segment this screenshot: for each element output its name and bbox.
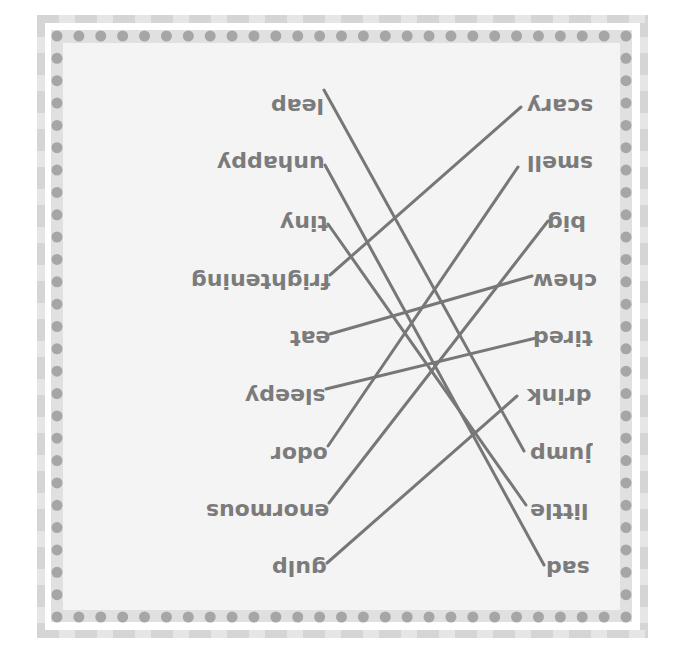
border-dot — [621, 589, 632, 600]
border-dot — [621, 433, 632, 444]
border-dot — [599, 31, 610, 42]
border-dot — [52, 343, 63, 354]
border-dot — [73, 31, 84, 42]
border-dot — [621, 75, 632, 86]
border-dot — [139, 612, 150, 623]
border-dot — [621, 500, 632, 511]
border-dot — [292, 612, 303, 623]
border-dot — [533, 31, 544, 42]
border-dot — [621, 120, 632, 131]
border-dot — [52, 567, 63, 578]
border-dot — [52, 120, 63, 131]
border-dot — [621, 142, 632, 153]
border-dot — [555, 612, 566, 623]
border-dot — [248, 31, 259, 42]
border-dot — [52, 544, 63, 555]
border-dot — [183, 612, 194, 623]
border-dot — [52, 477, 63, 488]
border-dot — [336, 31, 347, 42]
border-dot — [52, 522, 63, 533]
border-dot — [52, 410, 63, 421]
border-dot — [52, 500, 63, 511]
border-dot — [445, 612, 456, 623]
border-dot — [117, 31, 128, 42]
word-right-big[interactable]: big — [547, 212, 586, 234]
border-dot — [52, 187, 63, 198]
border-dot — [227, 612, 238, 623]
match-line-sleepy-tired — [326, 338, 536, 389]
word-left-sleepy[interactable]: sleepy — [245, 385, 326, 407]
border-dot — [621, 321, 632, 332]
word-right-scary[interactable]: scary — [527, 95, 593, 117]
word-right-drink[interactable]: drink — [527, 385, 591, 407]
word-left-frightening[interactable]: frightening — [191, 270, 330, 292]
border-dot — [183, 31, 194, 42]
border-dot — [402, 612, 413, 623]
border-dot — [52, 53, 63, 64]
border-dot — [117, 612, 128, 623]
border-dot — [52, 276, 63, 287]
border-dot — [621, 544, 632, 555]
border-dot — [577, 31, 588, 42]
border-dot — [621, 455, 632, 466]
border-dot — [621, 187, 632, 198]
word-left-enormous[interactable]: enormous — [206, 500, 329, 522]
border-dot — [380, 612, 391, 623]
border-dot — [621, 276, 632, 287]
border-dot — [621, 612, 632, 623]
border-dot — [336, 612, 347, 623]
border-dot — [402, 31, 413, 42]
border-dot — [533, 612, 544, 623]
word-right-little[interactable]: little — [530, 500, 589, 522]
border-dot — [489, 612, 500, 623]
word-right-chew[interactable]: chew — [533, 270, 597, 292]
border-dot — [52, 366, 63, 377]
border-dot — [621, 299, 632, 310]
word-left-unhappy[interactable]: unhappy — [217, 152, 325, 174]
border-dot — [270, 612, 281, 623]
border-dot — [52, 165, 63, 176]
border-dot — [52, 388, 63, 399]
border-dot — [139, 31, 150, 42]
border-dot — [621, 209, 632, 220]
border-dot — [161, 612, 172, 623]
border-dot — [358, 612, 369, 623]
border-dot — [467, 612, 478, 623]
border-dot — [621, 232, 632, 243]
border-dot — [52, 98, 63, 109]
word-right-tired[interactable]: tired — [533, 327, 593, 349]
word-left-odor[interactable]: odor — [271, 443, 328, 465]
word-right-jump[interactable]: jump — [530, 443, 592, 465]
border-dot — [52, 232, 63, 243]
border-dot — [621, 53, 632, 64]
border-dot — [95, 612, 106, 623]
border-dot — [599, 612, 610, 623]
word-right-sad[interactable]: sad — [546, 557, 590, 579]
border-dot — [270, 31, 281, 42]
border-dot — [248, 612, 259, 623]
border-dot — [621, 165, 632, 176]
word-left-eat[interactable]: eat — [290, 327, 330, 349]
border-dot — [292, 31, 303, 42]
border-dot — [511, 31, 522, 42]
border-dot — [621, 388, 632, 399]
word-left-leap[interactable]: leap — [271, 95, 324, 117]
border-dot — [621, 366, 632, 377]
border-dot — [52, 254, 63, 265]
match-lines — [324, 90, 548, 565]
border-dot — [73, 612, 84, 623]
border-dot — [314, 31, 325, 42]
border-dot — [52, 31, 63, 42]
match-line-odor-smell — [328, 167, 518, 446]
word-left-gulp[interactable]: gulp — [272, 557, 327, 579]
word-left-tiny[interactable]: tiny — [280, 212, 328, 234]
border-dot — [52, 209, 63, 220]
border-dot — [424, 31, 435, 42]
border-dot — [621, 31, 632, 42]
border-dot — [52, 612, 63, 623]
border-dot — [358, 31, 369, 42]
border-dot — [380, 31, 391, 42]
word-right-smell[interactable]: smell — [527, 152, 593, 174]
border-dot — [52, 433, 63, 444]
border-dot — [205, 31, 216, 42]
